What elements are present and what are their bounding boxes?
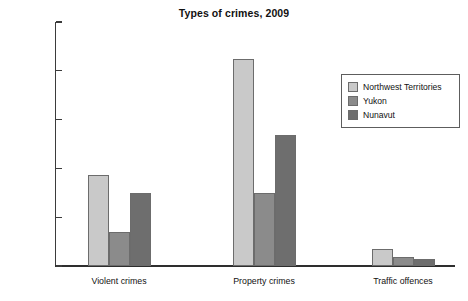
crime-statistics-bar-chart: Types of crimes, 2009 10 0008 0006 0004 … <box>0 0 468 301</box>
legend-swatch-icon <box>348 96 358 106</box>
bar <box>130 193 151 266</box>
legend-label: Yukon <box>363 97 387 106</box>
bar <box>88 175 109 267</box>
legend-label: Northwest Territories <box>363 83 442 92</box>
bar-group <box>55 22 455 266</box>
legend-item-yukon: Yukon <box>348 94 453 108</box>
bar <box>275 135 296 266</box>
x-axis-category-label: Violent crimes <box>91 276 146 286</box>
bar <box>393 257 414 266</box>
legend-item-northwest-territories: Northwest Territories <box>348 80 453 94</box>
legend-item-nunavut: Nunavut <box>348 108 453 122</box>
chart-title: Types of crimes, 2009 <box>0 7 468 19</box>
x-axis-category-label: Property crimes <box>233 276 295 286</box>
x-axis-category-label: Traffic offences <box>373 276 433 286</box>
legend-swatch-icon <box>348 82 358 92</box>
bar <box>254 193 275 266</box>
bar <box>414 259 435 266</box>
bar <box>372 249 393 266</box>
plot-area: 10 0008 0006 0004 0002 0000 Northwest Te… <box>55 22 455 266</box>
legend-swatch-icon <box>348 110 358 120</box>
legend-label: Nunavut <box>363 111 395 120</box>
chart-legend: Northwest Territories Yukon Nunavut <box>341 74 460 128</box>
bar <box>109 232 130 266</box>
bar <box>233 59 254 266</box>
